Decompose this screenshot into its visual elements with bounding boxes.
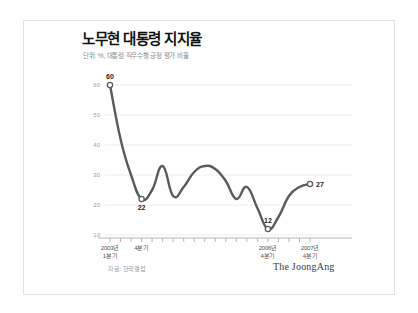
brand-logo: The JoongAng [273,261,335,272]
data-point-marker [307,181,312,186]
y-axis-tick-label: 40 [93,142,100,148]
y-axis-tick-label: 50 [93,112,100,118]
x-axis-tick-label: 2003년 [101,244,119,251]
data-point-marker [139,196,144,201]
source-note: 자료: 한국갤럽 [108,264,146,273]
x-axis-tick-label: 4분기 [134,244,149,252]
grid-lines [105,85,352,235]
y-axis-tick-label: 60 [93,82,100,88]
y-axis-ticks: 102030405060 [93,82,100,238]
x-axis-tick-label: 4분기 [303,252,318,260]
x-axis-tick-label: 4분기 [261,252,276,260]
x-axis-tick-label: 1분기 [103,252,118,260]
chart-page: 노무현 대통령 지지율 단위: %, 대통령 직무수행 긍정 평가 비율 102… [0,0,418,313]
data-point-labels: 60221227 [106,73,324,224]
line-chart: 102030405060 60221227 2003년1분기4분기2006년4분… [0,0,418,313]
y-axis-tick-label: 30 [93,172,100,178]
x-axis-tick-labels: 2003년1분기4분기2006년4분기2007년4분기 [101,244,319,260]
data-point-marker [107,82,112,87]
y-axis-tick-label: 10 [93,232,100,238]
x-axis-ticks [110,238,310,242]
data-point-label: 27 [316,181,324,188]
x-axis-tick-label: 2007년 [301,244,319,251]
data-point-marker [265,226,270,231]
y-axis-tick-label: 20 [93,202,100,208]
data-point-label: 60 [106,73,114,80]
data-point-label: 12 [264,217,272,224]
data-point-label: 22 [138,204,146,211]
x-axis-tick-label: 2006년 [259,244,277,251]
